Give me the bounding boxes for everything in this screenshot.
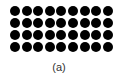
dot bbox=[33, 30, 43, 40]
dot bbox=[68, 42, 78, 52]
dot bbox=[68, 18, 78, 28]
dot bbox=[103, 18, 113, 28]
dot bbox=[22, 18, 32, 28]
dot bbox=[10, 42, 20, 52]
dot bbox=[22, 6, 32, 16]
dot bbox=[80, 18, 90, 28]
dot bbox=[33, 6, 43, 16]
dot bbox=[91, 6, 101, 16]
dot bbox=[68, 30, 78, 40]
dot bbox=[80, 42, 90, 52]
dot bbox=[45, 30, 55, 40]
dot bbox=[80, 6, 90, 16]
dot bbox=[10, 6, 20, 16]
dot bbox=[91, 30, 101, 40]
dot bbox=[33, 18, 43, 28]
dot bbox=[45, 18, 55, 28]
dot bbox=[10, 30, 20, 40]
dot bbox=[103, 6, 113, 16]
dot bbox=[80, 30, 90, 40]
dot bbox=[91, 42, 101, 52]
dot bbox=[91, 18, 101, 28]
dot bbox=[68, 6, 78, 16]
figure-caption: (a) bbox=[0, 61, 118, 73]
dot bbox=[56, 30, 66, 40]
dot-grid bbox=[10, 6, 113, 52]
dot bbox=[56, 18, 66, 28]
dot bbox=[10, 18, 20, 28]
dot bbox=[103, 42, 113, 52]
dot bbox=[45, 42, 55, 52]
dot bbox=[103, 30, 113, 40]
dot bbox=[33, 42, 43, 52]
dot bbox=[45, 6, 55, 16]
dot bbox=[22, 42, 32, 52]
dot bbox=[56, 42, 66, 52]
dot bbox=[22, 30, 32, 40]
dot bbox=[56, 6, 66, 16]
